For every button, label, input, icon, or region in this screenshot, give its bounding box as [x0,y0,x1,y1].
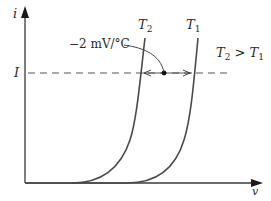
diagram-canvas [0,0,271,201]
temperature-coefficient-annotation: −2 mV/°C [69,38,130,50]
curve-t2 [25,38,145,183]
current-level-label: I [14,66,19,79]
curve-t1-label: T1 [186,18,200,34]
y-axis-label: i [13,7,17,20]
diode-temperature-diagram: i v I T2 T1 −2 mV/°C T2 > T1 [0,0,271,201]
curve-t1 [72,38,198,183]
curve-t2-label: T2 [138,18,152,34]
y-axis-arrow-icon [21,6,29,18]
x-axis-label: v [252,186,258,197]
temperature-relation-label: T2 > T1 [216,46,264,62]
